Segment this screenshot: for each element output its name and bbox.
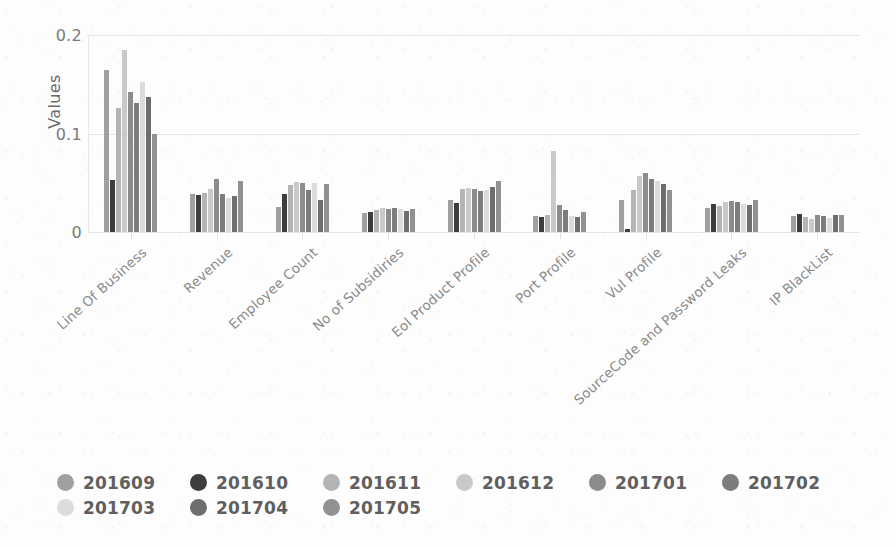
bar[interactable] (655, 181, 660, 232)
bar[interactable] (747, 205, 752, 232)
bar[interactable] (238, 181, 243, 232)
bar[interactable] (276, 207, 281, 232)
bar[interactable] (625, 229, 630, 232)
bar[interactable] (104, 70, 109, 232)
bar[interactable] (545, 215, 550, 232)
bar[interactable] (294, 182, 299, 232)
bar[interactable] (306, 190, 311, 232)
bar[interactable] (454, 203, 459, 232)
bar[interactable] (220, 194, 225, 232)
legend-item-label: 201612 (482, 473, 554, 493)
bar[interactable] (833, 215, 838, 232)
bar[interactable] (533, 216, 538, 232)
bar[interactable] (839, 215, 844, 232)
bar[interactable] (667, 190, 672, 232)
legend-item-label: 201704 (216, 498, 288, 518)
legend-item[interactable]: 201705 (323, 495, 456, 520)
legend-item[interactable]: 201609 (57, 470, 190, 495)
bar[interactable] (324, 184, 329, 232)
bar[interactable] (380, 208, 385, 232)
bar[interactable] (312, 183, 317, 232)
bar[interactable] (490, 187, 495, 232)
bar[interactable] (735, 202, 740, 232)
bar[interactable] (288, 185, 293, 232)
bar[interactable] (797, 214, 802, 232)
bar[interactable] (116, 108, 121, 232)
bar[interactable] (581, 212, 586, 232)
bar[interactable] (637, 176, 642, 232)
bar[interactable] (362, 213, 367, 232)
bar[interactable] (410, 209, 415, 232)
bar[interactable] (398, 209, 403, 232)
bar[interactable] (821, 216, 826, 232)
bar[interactable] (791, 216, 796, 232)
bar[interactable] (705, 208, 710, 232)
bar[interactable] (110, 180, 115, 232)
legend-dot-201705 (323, 499, 340, 516)
legend-item[interactable]: 201611 (323, 470, 456, 495)
bar[interactable] (128, 92, 133, 232)
bar[interactable] (753, 200, 758, 233)
bar[interactable] (460, 189, 465, 232)
bar[interactable] (392, 208, 397, 232)
legend-item-label: 201702 (748, 473, 820, 493)
bar[interactable] (723, 202, 728, 232)
bar[interactable] (208, 189, 213, 232)
bar[interactable] (300, 183, 305, 232)
bar[interactable] (214, 179, 219, 232)
legend-item[interactable]: 201704 (190, 495, 323, 520)
bar[interactable] (643, 173, 648, 232)
bar[interactable] (539, 217, 544, 232)
bar[interactable] (190, 194, 195, 232)
bar[interactable] (368, 212, 373, 232)
bar[interactable] (386, 209, 391, 232)
bar[interactable] (146, 97, 151, 232)
legend-item-label: 201611 (349, 473, 421, 493)
bar[interactable] (557, 205, 562, 232)
bar[interactable] (815, 215, 820, 232)
bar[interactable] (729, 201, 734, 232)
bar[interactable] (472, 189, 477, 232)
bar[interactable] (374, 210, 379, 232)
bar[interactable] (827, 218, 832, 232)
bar[interactable] (122, 50, 127, 232)
bar[interactable] (569, 216, 574, 232)
bar[interactable] (711, 204, 716, 232)
bar[interactable] (140, 82, 145, 232)
y-tick-label: 0 (12, 223, 82, 242)
legend-dot-201701 (589, 474, 606, 491)
bar[interactable] (226, 198, 231, 232)
legend-item[interactable]: 201701 (589, 470, 722, 495)
bar[interactable] (496, 181, 501, 232)
bar[interactable] (575, 217, 580, 232)
bar[interactable] (484, 190, 489, 232)
bar[interactable] (803, 217, 808, 232)
chart-legend[interactable]: 2016092016102016112016122017012017022017… (57, 470, 857, 520)
legend-item[interactable]: 201702 (722, 470, 855, 495)
bar[interactable] (563, 210, 568, 232)
bar[interactable] (478, 191, 483, 232)
bar[interactable] (318, 200, 323, 232)
legend-item[interactable]: 201610 (190, 470, 323, 495)
bar[interactable] (661, 184, 666, 232)
bar[interactable] (282, 194, 287, 232)
x-axis-label: Vul Profile (602, 244, 664, 302)
bar[interactable] (134, 103, 139, 232)
bar[interactable] (631, 190, 636, 232)
bar[interactable] (196, 195, 201, 232)
bar[interactable] (717, 206, 722, 232)
bar[interactable] (232, 196, 237, 232)
bar[interactable] (448, 200, 453, 233)
bar[interactable] (649, 179, 654, 232)
legend-item[interactable]: 201612 (456, 470, 589, 495)
bar[interactable] (152, 134, 157, 233)
legend-item-label: 201705 (349, 498, 421, 518)
legend-item[interactable]: 201703 (57, 495, 190, 520)
bar[interactable] (404, 211, 409, 232)
bar[interactable] (741, 204, 746, 232)
bar[interactable] (619, 200, 624, 232)
bar[interactable] (466, 188, 471, 232)
bar[interactable] (809, 219, 814, 232)
bar[interactable] (551, 151, 556, 232)
bar[interactable] (202, 193, 207, 232)
